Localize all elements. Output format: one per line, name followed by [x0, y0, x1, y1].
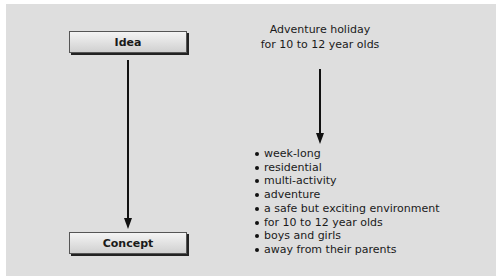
list-item: residential	[254, 161, 439, 175]
list-item: week-long	[254, 147, 439, 161]
concept-box: Concept	[69, 232, 187, 254]
concept-attributes-list: week-long residential multi-activity adv…	[254, 147, 439, 257]
list-item: multi-activity	[254, 174, 439, 188]
idea-to-concept-arrow-line	[127, 60, 129, 220]
list-item: for 10 to 12 year olds	[254, 216, 439, 230]
arrow-down-icon	[316, 133, 324, 144]
description-arrow-line	[319, 69, 321, 135]
list-item: boys and girls	[254, 229, 439, 243]
idea-description: Adventure holiday for 10 to 12 year olds	[255, 22, 385, 52]
concept-label: Concept	[103, 237, 154, 250]
idea-description-line-2: for 10 to 12 year olds	[255, 37, 385, 52]
arrow-down-icon	[124, 218, 132, 229]
list-item: adventure	[254, 188, 439, 202]
idea-box: Idea	[69, 31, 187, 53]
list-item: a safe but exciting environment	[254, 202, 439, 216]
list-item: away from their parents	[254, 243, 439, 257]
idea-label: Idea	[115, 36, 142, 49]
idea-description-line-1: Adventure holiday	[255, 22, 385, 37]
